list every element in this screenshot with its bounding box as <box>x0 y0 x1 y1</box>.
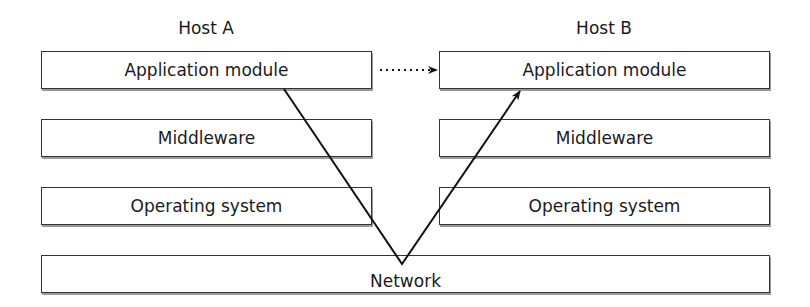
host-a-operating-system: Operating system <box>41 187 372 225</box>
host-a-label: Host A <box>106 18 306 38</box>
host-a-operating-system-label: Operating system <box>131 196 283 216</box>
host-b-operating-system: Operating system <box>439 187 770 225</box>
host-b-label: Host B <box>504 18 704 38</box>
host-b-operating-system-label: Operating system <box>529 196 681 216</box>
host-b-application-module: Application module <box>439 51 770 89</box>
host-a-middleware-label: Middleware <box>158 128 256 148</box>
host-b-middleware-label: Middleware <box>556 128 654 148</box>
host-a-application-module: Application module <box>41 51 372 89</box>
host-a-application-module-label: Application module <box>124 60 288 80</box>
message-path-arrow <box>284 89 520 264</box>
host-b-application-module-label: Application module <box>522 60 686 80</box>
network-box: Network <box>41 255 770 293</box>
host-a-middleware: Middleware <box>41 119 372 157</box>
host-b-middleware: Middleware <box>439 119 770 157</box>
network-label: Network <box>370 271 441 291</box>
